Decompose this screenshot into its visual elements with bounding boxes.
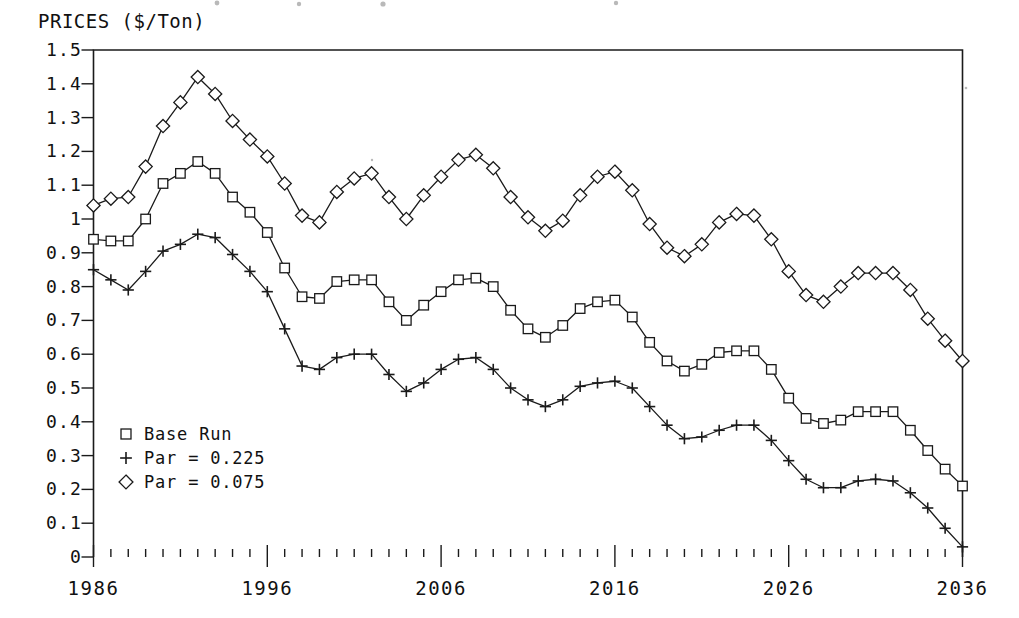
legend-label: Par = 0.075 bbox=[144, 472, 265, 492]
data-point-marker bbox=[367, 275, 377, 285]
y-tick-label: 1.3 bbox=[46, 107, 82, 128]
data-point-marker bbox=[124, 236, 134, 246]
data-point-marker bbox=[263, 228, 273, 238]
legend-label: Base Run bbox=[144, 424, 232, 444]
data-point-marker bbox=[940, 464, 950, 474]
data-point-marker bbox=[732, 346, 742, 356]
chart-title: PRICES ($/Ton) bbox=[38, 10, 205, 32]
x-tick-label: 2026 bbox=[763, 577, 815, 599]
legend-marker-square bbox=[121, 429, 131, 439]
data-point-marker bbox=[958, 481, 968, 491]
data-point-marker bbox=[384, 297, 394, 307]
data-point-marker bbox=[419, 300, 429, 310]
data-point-marker bbox=[228, 192, 238, 202]
y-tick-label: 0.8 bbox=[46, 276, 82, 297]
x-tick-label: 2036 bbox=[937, 577, 989, 599]
data-point-marker bbox=[471, 273, 481, 283]
prices-line-chart: PRICES ($/Ton) 1.51.41.31.21.110.90.80.7… bbox=[0, 0, 1019, 618]
y-tick-label: 1.2 bbox=[46, 140, 82, 161]
x-tick-label: 2016 bbox=[589, 577, 641, 599]
x-tick-label: 1996 bbox=[241, 577, 293, 599]
data-point-marker bbox=[332, 277, 342, 287]
y-tick-label: 0 bbox=[70, 546, 82, 567]
data-point-marker bbox=[697, 360, 707, 370]
y-tick-label: 0.3 bbox=[46, 445, 82, 466]
data-point-marker bbox=[315, 294, 325, 304]
data-point-marker bbox=[402, 316, 412, 326]
data-point-marker bbox=[158, 179, 168, 189]
data-point-marker bbox=[610, 295, 620, 305]
data-point-marker bbox=[349, 275, 359, 285]
data-point-marker bbox=[106, 236, 116, 246]
x-tick-label: 1986 bbox=[68, 577, 120, 599]
y-tick-label: 0.6 bbox=[46, 343, 82, 364]
data-point-marker bbox=[784, 393, 794, 403]
y-tick-label: 0.7 bbox=[46, 309, 82, 330]
data-point-marker bbox=[906, 426, 916, 436]
data-point-marker bbox=[141, 214, 151, 224]
data-point-marker bbox=[280, 263, 290, 273]
data-point-marker bbox=[767, 365, 777, 375]
data-point-marker bbox=[436, 287, 446, 297]
y-tick-label: 0.5 bbox=[46, 377, 82, 398]
data-point-marker bbox=[801, 414, 811, 424]
data-point-marker bbox=[593, 297, 603, 307]
data-point-marker bbox=[871, 407, 881, 417]
data-point-marker bbox=[628, 312, 638, 322]
data-point-marker bbox=[193, 157, 203, 167]
data-point-marker bbox=[888, 407, 898, 417]
data-point-marker bbox=[454, 275, 464, 285]
data-point-marker bbox=[836, 415, 846, 425]
data-point-marker bbox=[89, 235, 99, 245]
data-point-marker bbox=[558, 321, 568, 331]
data-point-marker bbox=[680, 366, 690, 376]
y-tick-label: 1.5 bbox=[46, 39, 82, 60]
data-point-marker bbox=[176, 169, 186, 179]
y-tick-label: 0.2 bbox=[46, 478, 82, 499]
chart-container: PRICES ($/Ton) 1.51.41.31.21.110.90.80.7… bbox=[0, 0, 1019, 618]
data-point-marker bbox=[575, 304, 585, 314]
data-point-marker bbox=[297, 292, 307, 302]
x-tick-label: 2006 bbox=[415, 577, 467, 599]
y-tick-label: 0.4 bbox=[46, 411, 82, 432]
data-point-marker bbox=[923, 446, 933, 456]
y-tick-label: 1 bbox=[70, 208, 82, 229]
y-tick-label: 1.1 bbox=[46, 174, 82, 195]
data-point-marker bbox=[523, 324, 533, 334]
y-tick-label: 0.9 bbox=[46, 242, 82, 263]
data-point-marker bbox=[819, 419, 829, 429]
data-point-marker bbox=[853, 407, 863, 417]
y-tick-label: 1.4 bbox=[46, 73, 82, 94]
data-point-marker bbox=[749, 346, 759, 356]
y-tick-label: 0.1 bbox=[46, 512, 82, 533]
data-point-marker bbox=[645, 338, 655, 348]
legend-label: Par = 0.225 bbox=[144, 448, 265, 468]
data-point-marker bbox=[245, 207, 255, 217]
data-point-marker bbox=[506, 306, 516, 316]
data-point-marker bbox=[714, 348, 724, 358]
data-point-marker bbox=[210, 169, 220, 179]
data-point-marker bbox=[541, 333, 551, 343]
data-point-marker bbox=[662, 356, 672, 366]
data-point-marker bbox=[488, 282, 498, 292]
